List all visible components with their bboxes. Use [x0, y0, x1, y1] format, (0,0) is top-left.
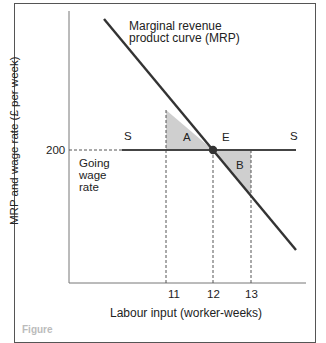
- region-b-label: B: [236, 159, 244, 171]
- going-wage-label-1: Going: [79, 157, 110, 169]
- s-label-right: S: [290, 130, 298, 142]
- region-a-shade: [166, 110, 213, 150]
- point-e-label: E: [222, 131, 230, 143]
- y-tick-200: 200: [46, 144, 65, 156]
- x-tick-13: 13: [245, 288, 258, 300]
- figure-caption: Figure: [22, 324, 53, 335]
- going-wage-label-3: rate: [79, 181, 99, 193]
- x-axis-label: Labour input (worker-weeks): [110, 307, 262, 319]
- going-wage-label-2: wage: [79, 169, 107, 181]
- x-tick-11: 11: [168, 288, 180, 300]
- x-tick-12: 12: [207, 288, 220, 300]
- region-a-label: A: [183, 131, 191, 143]
- s-label-left: S: [124, 130, 132, 142]
- y-axis-label: MRP and wage rate (£ per week): [8, 56, 20, 225]
- mrp-label-line2: product curve (MRP): [129, 32, 240, 44]
- equilibrium-point-e: [209, 146, 217, 154]
- mrp-curve: [104, 19, 296, 250]
